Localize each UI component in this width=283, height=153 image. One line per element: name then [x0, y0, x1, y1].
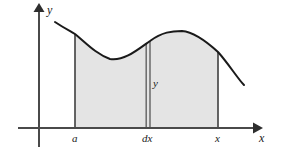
area-under-curve-diagram: y x a dx x y	[0, 0, 283, 153]
tick-label-x: x	[214, 132, 220, 144]
y-axis-label: y	[46, 3, 53, 17]
tick-label-dx: dx	[142, 132, 153, 144]
strip-height-label-y: y	[152, 77, 158, 89]
tick-label-a: a	[72, 132, 78, 144]
y-axis-arrowhead	[34, 3, 45, 12]
figure-container: y x a dx x y	[0, 0, 283, 153]
x-axis-label: x	[258, 131, 265, 145]
